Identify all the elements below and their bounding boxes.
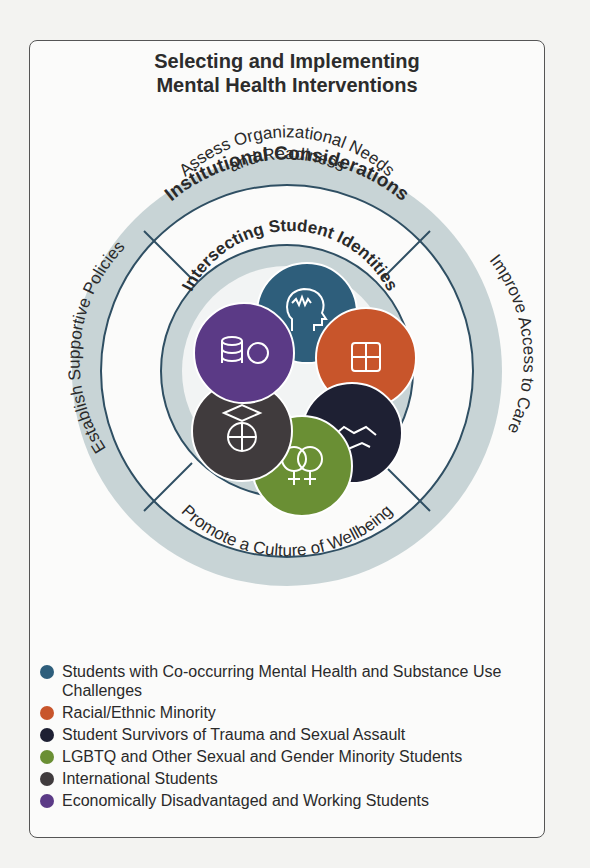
legend-label: Racial/Ethnic Minority (62, 703, 216, 722)
legend-item: Students with Co-occurring Mental Health… (40, 662, 540, 700)
legend-dot (40, 750, 54, 764)
legend-label: International Students (62, 769, 218, 788)
legend-item: Economically Disadvantaged and Working S… (40, 791, 540, 810)
legend-label: Economically Disadvantaged and Working S… (62, 791, 429, 810)
legend-item: Racial/Ethnic Minority (40, 703, 540, 722)
legend-dot (40, 772, 54, 786)
legend-label: Students with Co-occurring Mental Health… (62, 662, 540, 700)
legend-dot (40, 665, 54, 679)
legend-dot (40, 794, 54, 808)
legend-item: Student Survivors of Trauma and Sexual A… (40, 725, 540, 744)
legend-label: Student Survivors of Trauma and Sexual A… (62, 725, 405, 744)
legend: Students with Co-occurring Mental Health… (40, 662, 540, 813)
legend-item: International Students (40, 769, 540, 788)
concentric-diagram: Institutional Considerations Assess Orga… (30, 41, 544, 661)
legend-item: LGBTQ and Other Sexual and Gender Minori… (40, 747, 540, 766)
diagram-card: Selecting and Implementing Mental Health… (29, 40, 545, 838)
legend-label: LGBTQ and Other Sexual and Gender Minori… (62, 747, 462, 766)
legend-dot (40, 728, 54, 742)
legend-dot (40, 706, 54, 720)
identity-circle-economically-disadvantaged (194, 303, 294, 403)
